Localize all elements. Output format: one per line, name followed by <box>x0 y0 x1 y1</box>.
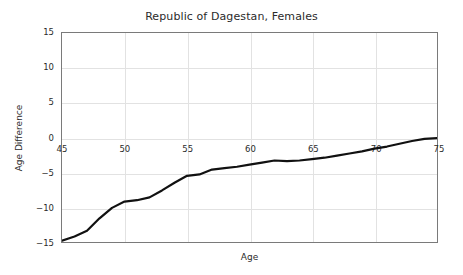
age-difference-line <box>62 33 437 242</box>
y-tick-label: 0 <box>49 133 54 143</box>
x-axis-label: Age <box>61 252 438 262</box>
y-tick-label: −5 <box>41 168 54 178</box>
chart-figure: Republic of Dagestan, Females Age Differ… <box>0 0 463 275</box>
y-tick-label: 10 <box>43 62 54 72</box>
y-tick-label: 15 <box>43 27 54 37</box>
y-axis-ticks: 151050−5−10−15 <box>0 32 61 243</box>
chart-title: Republic of Dagestan, Females <box>0 10 463 23</box>
plot-area: 45505560657075 <box>61 32 438 243</box>
y-tick-label: 5 <box>49 97 54 107</box>
y-tick-label: −15 <box>36 238 54 248</box>
series-layer <box>62 33 437 242</box>
y-tick-label: −10 <box>36 203 54 213</box>
age-difference-polyline <box>62 138 437 240</box>
